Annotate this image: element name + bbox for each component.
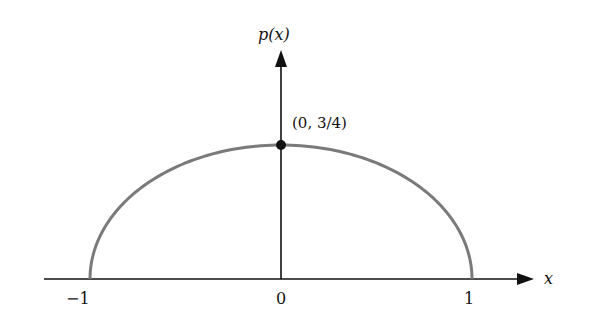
x-tick-neg1: −1 xyxy=(66,289,90,308)
peak-annotation: (0, 3/4) xyxy=(292,114,347,132)
peak-point-marker xyxy=(276,140,286,150)
x-axis-label: x xyxy=(544,269,553,288)
y-axis-arrow-icon xyxy=(275,50,287,67)
x-tick-1: 1 xyxy=(464,289,474,308)
density-plot: (0, 3/4) p(x) x −1 0 1 xyxy=(0,0,589,322)
y-axis-label: p(x) xyxy=(258,25,290,44)
x-axis-arrow-icon xyxy=(517,273,534,285)
x-tick-0: 0 xyxy=(276,289,286,308)
